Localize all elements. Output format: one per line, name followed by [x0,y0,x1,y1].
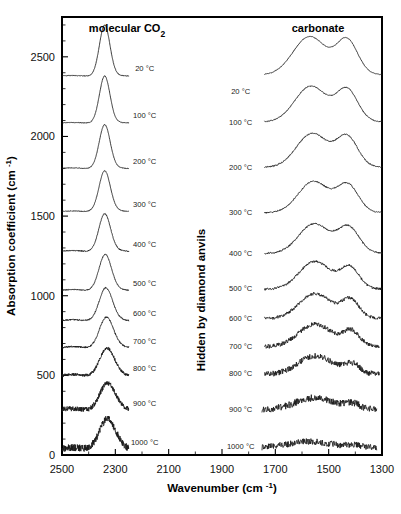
hidden-by-diamond-anvils-note: Hidden by diamond anvils [195,229,207,372]
series-label-molecular-co2: 600 °C [133,309,157,318]
series-label-molecular-co2: 200 °C [133,157,157,166]
series-label-carbonate: 300 °C [229,208,253,217]
series-label-molecular-co2: 100 °C [133,111,157,120]
series-label-carbonate: 600 °C [229,314,253,323]
x-tick-label: 1900 [210,463,234,475]
y-tick-label: 2500 [31,51,55,63]
series-label-molecular-co2: 20 °C [135,64,155,73]
series-label-carbonate: 200 °C [229,163,253,172]
series-label-carbonate: 800 °C [229,369,253,378]
panel-label-carbonate: carbonate [292,22,345,34]
series-label-molecular-co2: 1000 °C [131,438,159,447]
series-label-molecular-co2: 300 °C [133,200,157,209]
series-label-molecular-co2: 500 °C [133,279,157,288]
y-tick-label: 500 [37,369,55,381]
x-axis-title: Wavenumber (cm -1) [167,481,277,495]
series-label-carbonate: 900 °C [229,405,253,414]
y-axis-title: Absorption coefficient (cm -1) [4,156,18,316]
x-tick-label: 2300 [103,463,127,475]
x-tick-label: 2100 [156,463,180,475]
y-tick-label: 1500 [31,210,55,222]
spectra-chart: 2500230021001900170015001300050010001500… [0,0,401,514]
series-label-carbonate: 400 °C [229,249,253,258]
series-label-carbonate: 100 °C [229,118,253,127]
x-tick-label: 1500 [316,463,340,475]
series-label-molecular-co2: 700 °C [133,337,157,346]
series-label-molecular-co2: 800 °C [133,364,157,373]
series-label-carbonate: 20 °C [231,87,251,96]
x-tick-label: 2500 [50,463,74,475]
series-label-carbonate: 500 °C [229,284,253,293]
y-tick-label: 2000 [31,130,55,142]
series-label-carbonate: 1000 °C [227,442,255,451]
series-label-molecular-co2: 900 °C [133,399,157,408]
figure-container: 2500230021001900170015001300050010001500… [0,0,401,514]
y-tick-label: 0 [49,449,55,461]
series-label-carbonate: 700 °C [229,342,253,351]
y-tick-label: 1000 [31,290,55,302]
x-tick-label: 1700 [263,463,287,475]
series-label-molecular-co2: 400 °C [133,240,157,249]
x-tick-label: 1300 [370,463,394,475]
